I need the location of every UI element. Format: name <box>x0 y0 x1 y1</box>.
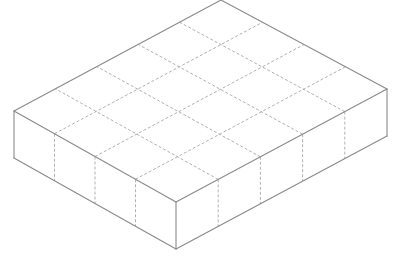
box-faces <box>14 0 387 249</box>
diagram-canvas <box>0 0 403 275</box>
isometric-box <box>0 0 403 275</box>
